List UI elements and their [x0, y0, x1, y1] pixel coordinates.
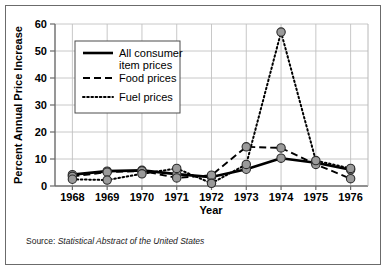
data-point-marker: [277, 144, 285, 152]
source-note: Source: Statistical Abstract of the Unit…: [26, 236, 204, 246]
x-tick-label: 1973: [234, 191, 258, 203]
x-tick-label: 1976: [338, 191, 362, 203]
data-point-marker: [312, 156, 320, 164]
y-tick-label: 40: [35, 72, 47, 84]
y-tick-label: 20: [35, 126, 47, 138]
x-tick-label: 1971: [164, 191, 188, 203]
source-prefix: Source:: [26, 236, 55, 246]
y-axis-title: Percent Annual Price Increase: [12, 26, 24, 184]
y-axis-ticks: 0102030405060: [35, 18, 55, 192]
y-tick-label: 60: [35, 18, 47, 30]
data-point-marker: [207, 179, 215, 187]
y-tick-label: 10: [35, 153, 47, 165]
data-point-marker: [277, 154, 285, 162]
data-point-marker: [138, 170, 146, 178]
legend-label: Food prices: [119, 72, 177, 84]
legend-label-line2: item prices: [119, 59, 173, 71]
y-tick-label: 0: [41, 180, 47, 192]
x-tick-label: 1972: [199, 191, 223, 203]
legend-label: Fuel prices: [119, 91, 173, 103]
y-tick-label: 50: [35, 45, 47, 57]
data-point-marker: [346, 175, 354, 183]
data-point-marker: [242, 160, 250, 168]
x-tick-label: 1974: [269, 191, 294, 203]
figure-container: 0102030405060 19681969197019711972197319…: [0, 0, 386, 270]
data-point-marker: [103, 176, 111, 184]
data-point-marker: [103, 168, 111, 176]
legend-label: All consumer: [119, 47, 183, 59]
data-point-marker: [242, 143, 250, 151]
y-tick-label: 30: [35, 99, 47, 111]
x-tick-label: 1975: [304, 191, 328, 203]
price-increase-line-chart: 0102030405060 19681969197019711972197319…: [0, 0, 386, 270]
x-axis-ticks: 196819691970197119721973197419751976: [60, 186, 363, 203]
data-point-marker: [346, 164, 354, 172]
data-point-marker: [173, 164, 181, 172]
x-tick-label: 1968: [60, 191, 84, 203]
data-point-marker: [277, 28, 285, 36]
source-citation: Statistical Abstract of the United State…: [58, 236, 205, 246]
x-tick-label: 1970: [130, 191, 154, 203]
data-point-marker: [173, 174, 181, 182]
x-tick-label: 1969: [95, 191, 119, 203]
chart-legend: All consumeritem pricesFood pricesFuel p…: [75, 41, 183, 113]
data-point-marker: [207, 171, 215, 179]
data-point-marker: [68, 175, 76, 183]
x-axis-title: Year: [199, 204, 223, 216]
